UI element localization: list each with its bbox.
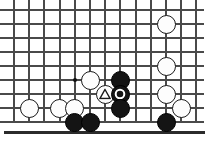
grid-line-vertical-0 [13,0,15,123]
triangle-mark-icon [99,89,111,100]
grid-line-vertical-6 [104,0,106,123]
grid-line-vertical-2 [43,0,45,123]
black-stone[interactable] [81,113,100,132]
white-stone[interactable] [81,71,100,90]
board-bottom-edge [4,131,205,134]
grid-line-vertical-5 [89,0,91,123]
grid-line-horizontal-5 [0,79,204,81]
grid-line-horizontal-0 [0,9,204,11]
grid-line-horizontal-3 [0,51,204,53]
grid-line-horizontal-2 [0,37,204,39]
grid-line-vertical-8 [135,0,137,123]
grid-line-vertical-12 [195,0,197,123]
black-stone[interactable] [157,113,176,132]
go-diagram-root [0,0,205,148]
hoshi-star-point [73,78,77,82]
go-board[interactable] [0,0,205,148]
white-stone[interactable] [157,57,176,76]
white-stone[interactable] [172,99,191,118]
white-stone[interactable] [157,15,176,34]
white-stone[interactable] [157,85,176,104]
grid-line-vertical-9 [150,0,152,123]
black-stone[interactable] [111,99,130,118]
white-stone[interactable] [20,99,39,118]
